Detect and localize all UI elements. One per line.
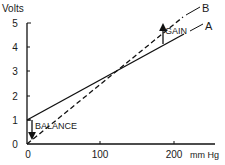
x-axis-unit: mm Hg <box>190 150 219 160</box>
svg-text:3: 3 <box>12 66 18 77</box>
gain-label: GAIN <box>165 26 187 36</box>
calibration-chart: Volts 5 4 3 2 1 0 0 100 200 mm Hg B A GA… <box>0 0 225 165</box>
svg-text:5: 5 <box>12 18 18 29</box>
series-a-line <box>27 34 184 120</box>
svg-text:2: 2 <box>12 91 18 102</box>
series-b-label: B <box>202 2 209 14</box>
series-b-leader <box>186 7 200 15</box>
svg-text:200: 200 <box>166 149 183 160</box>
svg-text:1: 1 <box>12 115 18 126</box>
svg-text:0: 0 <box>25 149 31 160</box>
series-a-label: A <box>205 20 213 32</box>
balance-label: BALANCE <box>35 121 77 131</box>
svg-text:100: 100 <box>92 149 109 160</box>
svg-text:0: 0 <box>12 139 18 150</box>
svg-text:4: 4 <box>12 42 18 53</box>
series-a-leader <box>190 24 203 31</box>
y-axis-label: Volts <box>2 3 24 14</box>
x-tick-labels: 0 100 200 <box>25 149 183 160</box>
y-tick-labels: 5 4 3 2 1 0 <box>12 18 18 150</box>
